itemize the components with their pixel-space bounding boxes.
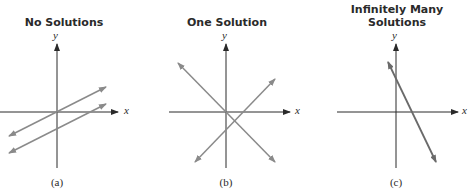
panel-c-graph: [337, 44, 458, 168]
panel-c-caption: (c): [381, 176, 411, 188]
panel-a-y-label: y: [53, 29, 58, 41]
panel-b-y-label: y: [222, 29, 227, 41]
panel-b-graph: [169, 44, 290, 168]
panel-a-x-label: x: [124, 104, 129, 116]
panel-a-title: No Solutions: [14, 16, 114, 29]
panel-b-title: One Solution: [177, 16, 277, 29]
panel-c-y-label: y: [392, 29, 397, 41]
panel-c-title-line-1: Infinitely Many: [347, 3, 447, 16]
panel-a-caption: (a): [42, 176, 72, 188]
panel-b-caption: (b): [211, 176, 241, 188]
panel-c-title-line-2: Solutions: [347, 16, 447, 29]
panel-a-graph: [0, 44, 118, 168]
panel-c-x-label: x: [462, 104, 467, 116]
panel-b-x-label: x: [295, 104, 300, 116]
